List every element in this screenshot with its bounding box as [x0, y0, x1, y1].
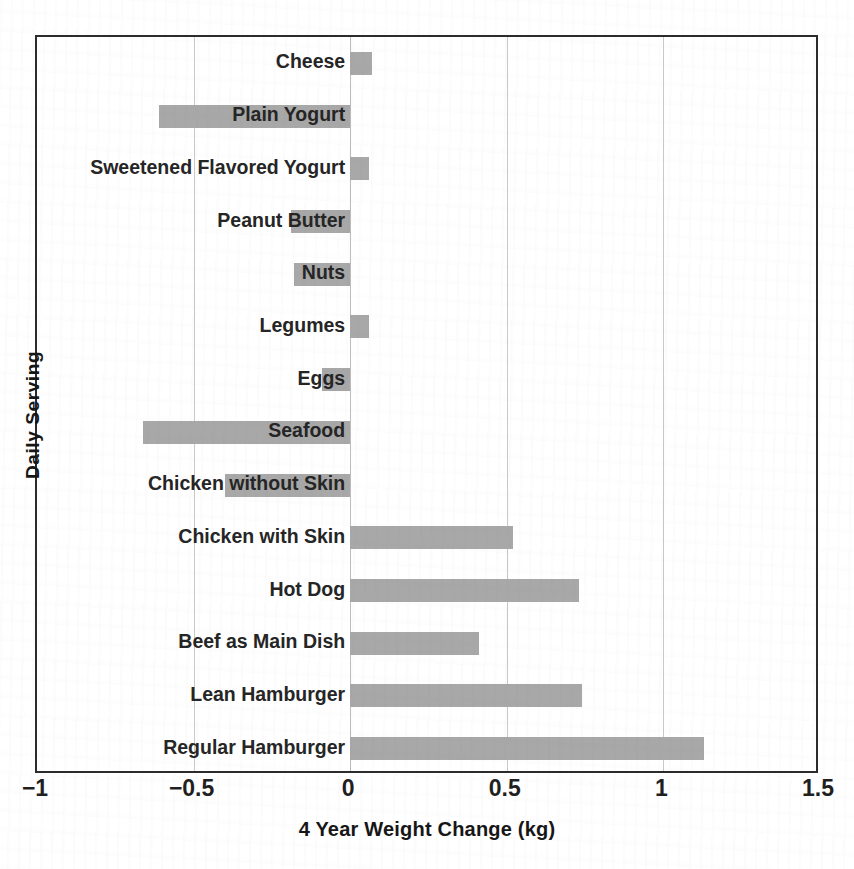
bar — [350, 737, 704, 760]
x-tick-label: −1 — [22, 775, 48, 802]
bar-row — [37, 210, 816, 233]
bar — [350, 684, 582, 707]
x-tick-label: 0 — [342, 775, 355, 802]
bar — [350, 157, 369, 180]
x-axis-title: 4 Year Weight Change (kg) — [0, 818, 854, 841]
bar — [159, 105, 350, 128]
bar-row — [37, 157, 816, 180]
bar — [350, 579, 579, 602]
bar-row — [37, 421, 816, 444]
bar — [291, 210, 351, 233]
bar-row — [37, 579, 816, 602]
x-axis-tick-labels: −1−0.500.511.5 — [0, 775, 854, 815]
bar-row — [37, 526, 816, 549]
bar-row — [37, 52, 816, 75]
x-tick-label: 1.5 — [802, 775, 834, 802]
bar-row — [37, 105, 816, 128]
bar — [350, 315, 369, 338]
plot-area — [35, 35, 818, 773]
bar — [350, 632, 478, 655]
bars-layer — [37, 37, 816, 771]
bar — [322, 368, 350, 391]
bar-row — [37, 315, 816, 338]
bar — [225, 474, 350, 497]
bar-row — [37, 632, 816, 655]
bar-row — [37, 684, 816, 707]
bar-row — [37, 263, 816, 286]
bar — [294, 263, 350, 286]
x-tick-label: 1 — [655, 775, 668, 802]
bar — [143, 421, 350, 444]
x-tick-label: 0.5 — [489, 775, 521, 802]
bar — [350, 526, 513, 549]
bar — [350, 52, 372, 75]
bar-row — [37, 737, 816, 760]
x-tick-label: −0.5 — [169, 775, 214, 802]
bar-row — [37, 474, 816, 497]
chart-figure: CheesePlain YogurtSweetened Flavored Yog… — [0, 0, 854, 869]
y-axis-title: Daily Serving — [22, 335, 44, 495]
bar-row — [37, 368, 816, 391]
